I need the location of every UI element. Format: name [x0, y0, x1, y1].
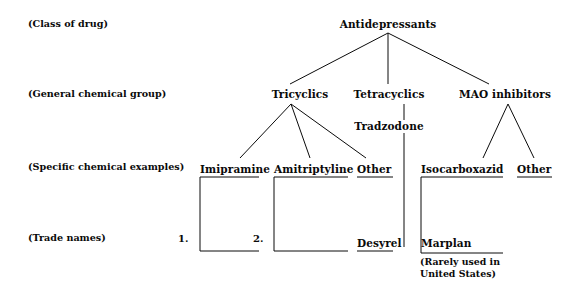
- node-mao-other: Other: [517, 163, 551, 175]
- row-label-trade-names: (Trade names): [28, 232, 106, 244]
- edge-tricyclics-to-amitriptyline: [291, 104, 310, 158]
- node-antidepressants: Antidepressants: [340, 18, 437, 30]
- trade-name-number-1: 1.: [178, 233, 188, 244]
- node-mao-inhibitors: MAO inhibitors: [459, 88, 551, 100]
- node-tetracyclics: Tetracyclics: [354, 88, 425, 100]
- trade-name-number-2: 2.: [253, 233, 263, 244]
- connector-lines-layer: [0, 0, 576, 295]
- marplan-note-line-2: United States): [420, 268, 496, 280]
- node-tradzodone: Tradzodone: [354, 120, 423, 132]
- node-amitriptyline: Amitriptyline: [274, 163, 354, 175]
- edge-root-to-mao-inhibitors: [388, 33, 489, 84]
- edge-mao-to-isocarboxazid: [483, 104, 508, 158]
- node-imipramine: Imipramine: [200, 163, 270, 175]
- node-marplan: Marplan: [421, 237, 471, 249]
- node-tricyclics: Tricyclics: [272, 88, 329, 100]
- edge-tricyclics-to-imipramine: [240, 104, 291, 158]
- edge-root-to-tricyclics: [290, 33, 388, 84]
- node-tricyclic-other: Other: [357, 163, 391, 175]
- diagram-canvas: (Class of drug) (General chemical group)…: [0, 0, 576, 295]
- node-desyrel: Desyrel: [357, 237, 402, 249]
- row-label-general-chemical-group: (General chemical group): [28, 88, 166, 100]
- row-label-class-of-drug: (Class of drug): [28, 18, 108, 30]
- node-isocarboxazid: Isocarboxazid: [421, 163, 504, 175]
- marplan-note-line-1: (Rarely used in: [420, 256, 500, 268]
- edge-mao-to-other: [508, 104, 534, 158]
- row-label-specific-chemical-examples: (Specific chemical examples): [28, 161, 184, 173]
